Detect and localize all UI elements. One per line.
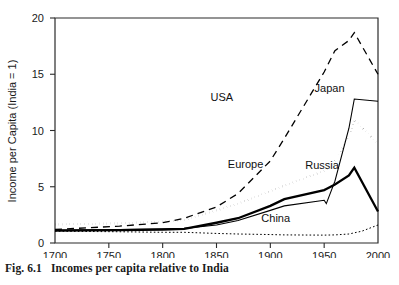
y-axis-tick-labels: 05101520 xyxy=(32,12,44,249)
series-label-japan: Japan xyxy=(315,82,345,94)
x-tick-label: 1700 xyxy=(43,250,67,258)
x-tick-label: 1750 xyxy=(97,250,121,258)
x-axis-tick-labels: 1700175018001850190019502000 xyxy=(43,250,390,258)
plot-frame xyxy=(55,18,378,243)
series-line-usa xyxy=(55,33,378,230)
y-axis-title: Income per Capita (India = 1) xyxy=(6,60,18,203)
y-tick-label: 5 xyxy=(38,181,44,193)
figure-caption: Fig. 6.1 Incomes per capita relative to … xyxy=(0,262,399,285)
series-lines xyxy=(55,33,378,236)
series-line-russia xyxy=(55,168,378,231)
x-tick-label: 1800 xyxy=(150,250,174,258)
series-label-europe: Europe xyxy=(228,158,263,170)
figure-caption-text: Incomes per capita relative to India xyxy=(51,262,229,274)
series-label-russia: Russia xyxy=(305,159,340,171)
figure-number: Fig. 6.1 xyxy=(5,262,42,274)
x-tick-label: 1950 xyxy=(312,250,336,258)
x-axis-tick-marks xyxy=(109,243,324,248)
y-tick-label: 20 xyxy=(32,12,44,24)
series-line-europe xyxy=(55,119,378,224)
chart-plot-area: Income per Capita (India = 1) 05101520 1… xyxy=(0,0,399,258)
x-tick-label: 1900 xyxy=(258,250,282,258)
x-tick-label: 1850 xyxy=(204,250,228,258)
series-label-usa: USA xyxy=(211,91,234,103)
line-chart: Income per Capita (India = 1) 05101520 1… xyxy=(0,0,399,258)
figure-container: Income per Capita (India = 1) 05101520 1… xyxy=(0,0,399,285)
y-tick-label: 10 xyxy=(32,125,44,137)
x-tick-label: 2000 xyxy=(366,250,390,258)
y-tick-label: 0 xyxy=(38,237,44,249)
y-tick-label: 15 xyxy=(32,68,44,80)
series-label-china: China xyxy=(261,212,291,224)
y-axis-tick-marks xyxy=(50,18,55,243)
